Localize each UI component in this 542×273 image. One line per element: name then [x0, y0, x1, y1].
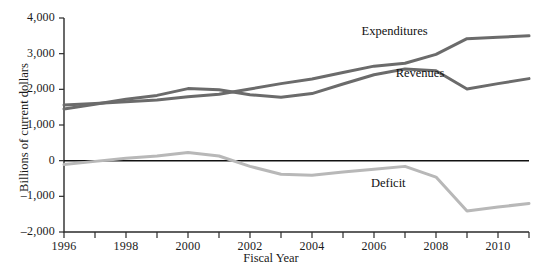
y-axis-title: Billions of current dollars	[17, 48, 32, 208]
series-paths	[64, 36, 529, 211]
chart-plot-area	[0, 0, 542, 273]
y-tick-label: –2,000	[0, 224, 55, 239]
series-line-revenues	[64, 69, 529, 109]
series-label-expenditures: Expenditures	[362, 24, 428, 39]
tick-marks	[59, 18, 529, 238]
series-label-revenues: Revenues	[396, 66, 445, 81]
axis-lines	[64, 18, 529, 232]
x-axis-title: Fiscal Year	[0, 251, 542, 266]
series-label-deficit: Deficit	[371, 176, 406, 191]
y-tick-label: 4,000	[0, 10, 55, 25]
chart-figure: –2,000–1,00001,0002,0003,0004,000 199619…	[0, 0, 542, 273]
